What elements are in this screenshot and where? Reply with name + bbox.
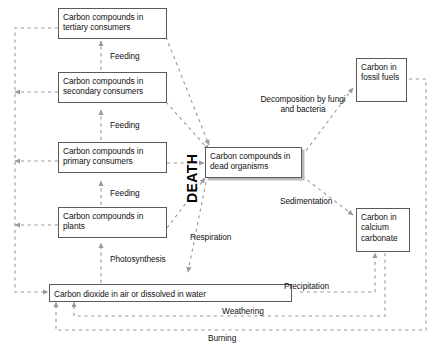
label-weathering: Weathering [222,306,264,316]
arrow-death-secondary-to-dead [166,102,209,150]
node-tertiary-consumers[interactable]: Carbon compounds in tertiary consumers [58,8,167,39]
label-photosynthesis: Photosynthesis [110,254,166,264]
node-calcium-carbonate[interactable]: Carbon in calcium carbonate [356,208,410,252]
label-feeding-lower: Feeding [110,188,140,198]
node-dead-organisms[interactable]: Carbon compounds in dead organisms [205,147,302,178]
node-fossil-fuels[interactable]: Carbon in fossil fuels [356,58,407,102]
arrow-network [0,0,438,363]
label-decomposition: Decomposition by fungi and bacteria [258,94,348,114]
node-primary-consumers[interactable]: Carbon compounds in primary consumers [58,142,167,173]
label-sedimentation: Sedimentation [280,196,332,206]
arrow-respiration-tertiary [15,28,58,292]
label-respiration: Respiration [190,232,231,242]
label-precipitation: Precipitation [284,281,329,291]
carbon-cycle-diagram: Carbon compounds in tertiary consumers C… [0,0,438,363]
arrow-death-tertiary-to-dead [166,37,209,145]
node-carbon-dioxide[interactable]: Carbon dioxide in air or dissolved in wa… [49,284,292,302]
node-plants[interactable]: Carbon compounds in plants [58,207,167,238]
label-burning: Burning [208,333,236,343]
label-feeding-upper: Feeding [110,51,140,61]
node-secondary-consumers[interactable]: Carbon compounds in secondary consumers [58,72,167,103]
label-death: DEATH [184,154,200,203]
label-feeding-mid: Feeding [110,120,140,130]
